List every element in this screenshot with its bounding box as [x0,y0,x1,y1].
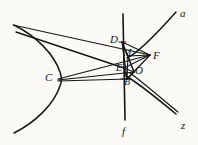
line-label-f: f [122,126,125,137]
point-label-D: D [110,34,118,45]
point-label-O: O [135,65,143,76]
curve-label-a: a [180,8,186,19]
point-label-B: B [124,77,130,87]
curve-label-z: z [181,120,185,131]
hyperbola-upper-branch [14,25,62,133]
figure-canvas [0,0,198,145]
point-label-F: F [153,50,160,61]
point-label-C: C [45,72,52,83]
geometry-figure: a z f C D M F E O B [0,0,198,145]
point-label-E: E [116,63,122,73]
ray-z-parallel [130,73,178,112]
ray-z [126,76,176,114]
line-f [123,14,125,120]
point-label-M: M [123,48,131,58]
